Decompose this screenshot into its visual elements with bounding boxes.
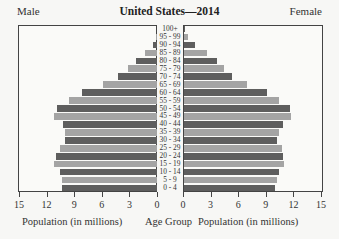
female-bar [184,153,283,160]
male-bar [62,185,157,192]
female-bar [184,113,291,120]
female-bar [184,58,217,65]
male-bar [156,34,157,41]
female-bar [184,97,279,104]
female-bar [184,137,277,144]
male-bar [69,97,157,104]
female-tick [321,192,322,197]
chart-title: United States—2014 [0,5,339,17]
female-tick-label: 15 [311,199,331,210]
male-bar [63,121,157,128]
male-tick [102,192,103,197]
male-tick [129,192,130,197]
male-bar [60,145,157,152]
female-bar [184,177,277,184]
female-bar [184,169,279,176]
male-bar [128,65,157,72]
female-tick-label: 9 [256,199,276,210]
female-tick [238,192,239,197]
female-bar [184,185,275,192]
female-bar [184,121,283,128]
male-bar [56,153,157,160]
female-tick-label: 12 [283,199,303,210]
male-bar [65,129,157,136]
female-bar [184,73,232,80]
female-tick-label: 0 [173,199,193,210]
male-tick-label: 12 [37,199,57,210]
male-bar [54,161,157,168]
female-bar [184,34,188,41]
male-tick [47,192,48,197]
female-bar [184,145,282,152]
male-bar [145,50,157,57]
female-tick [211,192,212,197]
female-tick-label: 3 [201,199,221,210]
female-bar [184,89,267,96]
female-x-axis-label: Population (in millions) [198,216,298,227]
male-tick-label: 15 [9,199,29,210]
age-group-column: 100+95 - 9990 - 9485 - 8980 - 8475 - 797… [157,25,183,192]
female-tick-label: 6 [228,199,248,210]
female-bar [184,26,185,33]
male-bar [136,58,157,65]
male-bar [103,81,157,88]
male-bar [153,42,157,49]
female-label: Female [290,5,322,17]
female-bar [184,50,207,57]
male-bar [62,177,157,184]
male-tick [19,192,20,197]
age-group-axis-label: Age Group [145,216,192,227]
female-bar [184,161,284,168]
female-bar [184,81,247,88]
male-tick-label: 3 [119,199,139,210]
female-tick [293,192,294,197]
male-bar [54,113,157,120]
female-tick [183,192,184,197]
male-bar [82,89,157,96]
male-tick [157,192,158,197]
female-bar [184,42,195,49]
male-tick-label: 9 [64,199,84,210]
male-bar [118,73,157,80]
male-bar [65,137,157,144]
male-x-axis-label: Population (in millions) [22,216,122,227]
male-tick-label: 6 [92,199,112,210]
female-bar [184,65,224,72]
male-bar [60,169,157,176]
male-bar [57,105,157,112]
male-tick-label: 0 [147,199,167,210]
female-bar [184,105,290,112]
male-tick [74,192,75,197]
age-group-label: 0 - 4 [157,184,183,192]
female-tick [266,192,267,197]
female-bar [184,129,279,136]
